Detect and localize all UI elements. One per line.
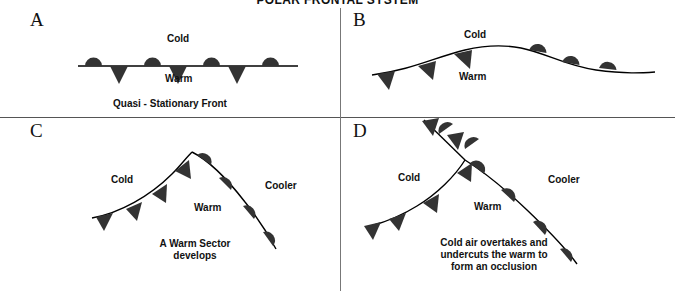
- panel-c-cold-label: Cold: [111, 174, 133, 186]
- panel-b-cold-label: Cold: [464, 29, 486, 41]
- panel-c-cooler-label: Cooler: [265, 180, 297, 192]
- cold-front-triangle: [377, 71, 395, 90]
- panel-b-front-diagram: [341, 0, 675, 117]
- polar-frontal-system-figure: POLAR FRONTAL SYSTEM A Cold Warm Quasi -…: [0, 0, 675, 291]
- warm-front-line: [192, 152, 276, 249]
- occluded-front-triangle: [447, 132, 464, 150]
- cold-front-triangle: [152, 184, 167, 203]
- panel-a: A Cold Warm Quasi - Stationary Front: [0, 0, 340, 117]
- panel-a-caption: Quasi - Stationary Front: [70, 98, 270, 110]
- warm-front-semicircle: [203, 58, 220, 66]
- warm-front-semicircle: [197, 153, 211, 165]
- warm-front-semicircle: [470, 161, 485, 174]
- cold-front-triangle: [457, 163, 472, 182]
- panel-a-cold-label: Cold: [167, 33, 189, 45]
- occluded-front-triangle: [422, 118, 439, 136]
- panel-c: C Cold Warm Cooler A Warm Sector develop…: [0, 118, 340, 291]
- occluded-front-semicircle: [439, 122, 453, 134]
- panel-d-cold-label: Cold: [398, 172, 420, 184]
- cold-front-triangle: [96, 213, 113, 231]
- warm-front-semicircle: [262, 58, 279, 66]
- panel-d-cooler-label: Cooler: [548, 174, 580, 186]
- occluded-front-semicircle: [465, 137, 479, 149]
- warm-front-semicircle: [144, 58, 161, 66]
- cold-front-triangle: [364, 222, 381, 240]
- panel-c-warm-label: Warm: [194, 202, 221, 214]
- warm-front-semicircle: [599, 62, 617, 70]
- cold-front-triangle: [228, 66, 246, 84]
- cold-front-line: [371, 160, 465, 226]
- panel-d-warm-label: Warm: [474, 201, 501, 213]
- panel-c-front-diagram: [0, 118, 340, 291]
- panel-b: B Cold Warm: [341, 0, 675, 117]
- warm-front-semicircle: [85, 58, 102, 66]
- panel-c-caption: A Warm Sector develops: [120, 238, 270, 262]
- warm-front-semicircle: [501, 188, 515, 202]
- panel-a-warm-label: Warm: [165, 73, 192, 85]
- warm-front-semicircle: [529, 44, 547, 53]
- frontal-wave-line: [372, 46, 655, 75]
- cold-front-line: [92, 152, 192, 218]
- panel-d: D Cold Warm Cooler Col: [341, 118, 675, 291]
- panel-d-caption: Cold air overtakes and undercuts the war…: [409, 237, 579, 273]
- warm-front-semicircle: [243, 205, 255, 219]
- warm-front-semicircle: [533, 221, 547, 235]
- cold-front-triangle: [110, 66, 128, 84]
- panel-b-warm-label: Warm: [459, 71, 486, 83]
- warm-front-semicircle: [219, 177, 232, 190]
